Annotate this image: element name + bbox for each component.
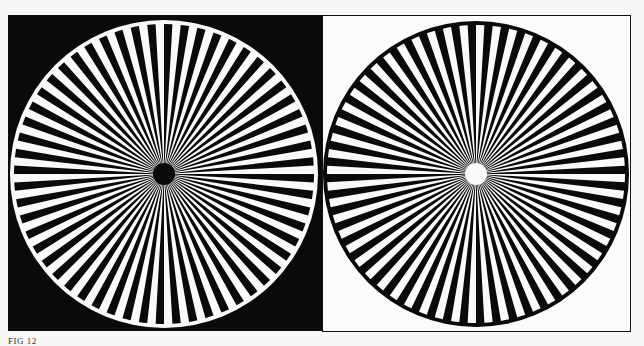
right-siemens-star xyxy=(0,0,644,346)
figure-caption: FIG 12 xyxy=(8,336,37,346)
